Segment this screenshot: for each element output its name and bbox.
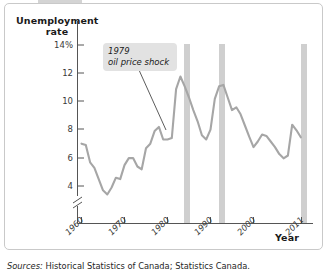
unemployment-rate-line — [82, 77, 301, 195]
recession-band-2008 — [301, 44, 307, 223]
x-axis-title: Year — [275, 232, 319, 243]
recession-band-1982 — [184, 44, 190, 223]
y-tick-label-14: 14% — [39, 40, 73, 50]
annotation-leader-line — [139, 70, 166, 130]
y-tick-label-10: 10 — [39, 96, 73, 106]
chart-card: Unemployment rate 14% 12 10 8 6 4 1960 1… — [4, 3, 323, 250]
recession-band-1990 — [219, 44, 225, 223]
y-tick-label-12: 12 — [39, 68, 73, 78]
y-tick-label-6: 6 — [39, 153, 73, 163]
annotation-line-1: 1979 — [108, 46, 172, 57]
source-note-lead: Sources: — [7, 261, 43, 271]
y-ticks — [78, 45, 85, 186]
y-tick-label-8: 8 — [39, 124, 73, 134]
unemployment-rate-figure: Unemployment rate 14% 12 10 8 6 4 1960 1… — [0, 0, 327, 280]
source-note-text: Historical Statistics of Canada; Statist… — [45, 261, 249, 271]
recession-bands — [184, 44, 307, 223]
oil-price-shock-annotation: 1979 oil price shock — [103, 43, 177, 71]
y-tick-label-4: 4 — [39, 181, 73, 191]
annotation-line-2: oil price shock — [108, 57, 172, 68]
page-title: Unemployment rate — [16, 15, 98, 37]
source-note: Sources: Historical Statistics of Canada… — [7, 261, 250, 271]
